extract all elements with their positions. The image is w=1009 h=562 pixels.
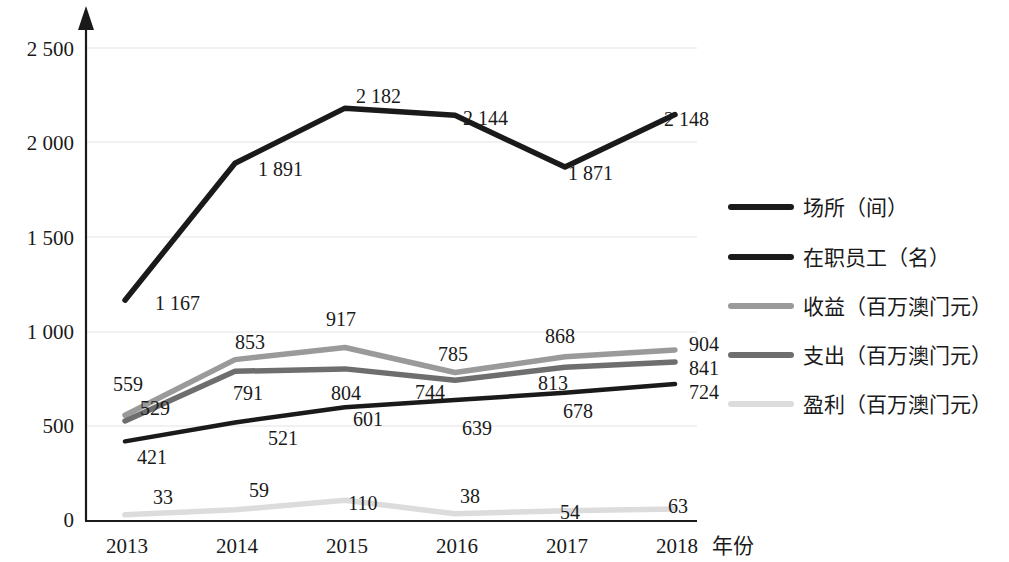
legend-label-revenue: 收益（百万澳门元） (803, 295, 992, 319)
x-tick-2015: 2015 (326, 534, 368, 558)
x-axis-title: 年份 (712, 534, 754, 558)
legend-label-venues: 场所（间） (803, 196, 908, 220)
y-tick-1000: 1 000 (27, 320, 74, 344)
data-label-revenue-2016: 785 (438, 343, 468, 365)
y-axis-arrow-icon (78, 6, 94, 30)
legend-label-staff: 在职员工（名） (803, 246, 950, 270)
data-label-expense-2014: 791 (233, 382, 263, 404)
data-label-venues-2016: 2 144 (463, 107, 508, 129)
chart-page: 0 500 1 000 1 500 2 000 2 500 2013 2014 … (0, 0, 1009, 562)
y-tick-500: 500 (43, 414, 75, 438)
data-label-revenue-2015: 917 (326, 308, 356, 330)
data-label-venues-2018: 2 148 (664, 108, 709, 130)
data-label-profit-2017: 54 (560, 501, 580, 523)
x-tick-2014: 2014 (216, 534, 259, 558)
data-label-revenue-2017: 868 (545, 325, 575, 347)
data-label-staff-2013: 421 (137, 446, 167, 468)
data-label-profit-2015: 110 (348, 492, 377, 514)
data-label-revenue-2013: 559 (113, 373, 143, 395)
data-label-staff-2018: 724 (689, 381, 719, 403)
data-label-staff-2014: 521 (268, 427, 298, 449)
x-tick-2017: 2017 (546, 534, 588, 558)
data-label-staff-2017: 678 (563, 400, 593, 422)
y-tick-0: 0 (64, 508, 75, 532)
series-venues (125, 108, 675, 300)
data-label-expense-2017: 813 (538, 372, 568, 394)
y-tick-2500: 2 500 (27, 37, 74, 61)
data-label-profit-2016: 38 (460, 485, 480, 507)
series-profit (125, 500, 675, 515)
data-label-revenue-2014: 853 (235, 331, 265, 353)
data-label-expense-2015: 804 (331, 382, 361, 404)
x-tick-2018: 2018 (656, 534, 698, 558)
y-tick-1500: 1 500 (27, 226, 74, 250)
data-label-profit-2013: 33 (153, 486, 173, 508)
data-label-venues-2015: 2 182 (356, 85, 401, 107)
y-axis (78, 6, 94, 521)
data-label-expense-2018: 841 (689, 357, 719, 379)
legend-label-profit: 盈利（百万澳门元） (803, 393, 992, 417)
y-tick-2000: 2 000 (27, 131, 74, 155)
data-label-venues-2013: 1 167 (155, 292, 200, 314)
x-tick-2016: 2016 (436, 534, 478, 558)
line-chart: 0 500 1 000 1 500 2 000 2 500 2013 2014 … (0, 0, 1009, 562)
legend-label-expense: 支出（百万澳门元） (803, 344, 992, 368)
data-label-revenue-2018: 904 (689, 333, 719, 355)
chart-legend: 场所（间） 在职员工（名） 收益（百万澳门元） 支出（百万澳门元） 盈利（百万澳… (731, 196, 992, 417)
data-label-profit-2018: 63 (668, 495, 688, 517)
data-label-expense-2016: 744 (415, 381, 445, 403)
data-label-venues-2014: 1 891 (258, 158, 303, 180)
data-label-profit-2014: 59 (249, 479, 269, 501)
data-label-staff-2016: 639 (462, 417, 492, 439)
x-tick-2013: 2013 (106, 534, 148, 558)
data-label-staff-2015: 601 (353, 408, 383, 430)
data-label-venues-2017: 1 871 (568, 162, 613, 184)
data-label-expense-2013: 529 (140, 397, 170, 419)
